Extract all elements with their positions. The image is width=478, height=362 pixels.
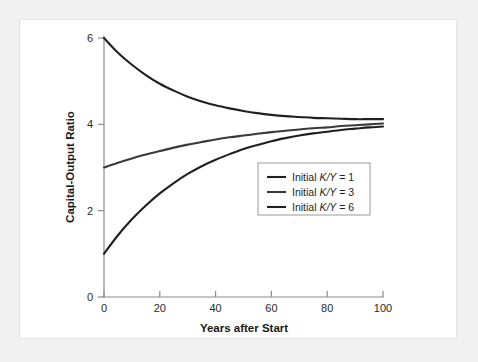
y-tick-label-0: 0 bbox=[87, 291, 93, 303]
chart-legend[interactable]: Initial K/Y = 1Initial K/Y = 3Initial K/… bbox=[258, 163, 370, 215]
legend-label-1: Initial K/Y = 3 bbox=[292, 186, 354, 198]
x-tick-label-20: 20 bbox=[154, 302, 166, 314]
capital-output-ratio-chart: 0246 020406080100 Years after Start Capi… bbox=[0, 0, 478, 362]
series-curves bbox=[104, 38, 383, 254]
series-curve-2 bbox=[104, 38, 383, 119]
x-tick-label-60: 60 bbox=[265, 302, 277, 314]
y-axis-ticks: 0246 bbox=[87, 32, 104, 303]
y-axis-title: Capital-Output Ratio bbox=[64, 111, 76, 223]
y-tick-label-6: 6 bbox=[87, 32, 93, 44]
legend-label-0: Initial K/Y = 1 bbox=[292, 171, 354, 183]
x-tick-label-80: 80 bbox=[321, 302, 333, 314]
legend-label-2: Initial K/Y = 6 bbox=[292, 201, 354, 213]
x-tick-label-40: 40 bbox=[209, 302, 221, 314]
x-tick-label-100: 100 bbox=[374, 302, 392, 314]
y-tick-label-4: 4 bbox=[87, 118, 93, 130]
x-axis-title: Years after Start bbox=[200, 322, 288, 334]
x-tick-label-0: 0 bbox=[101, 302, 107, 314]
x-axis-ticks: 020406080100 bbox=[101, 291, 392, 314]
figure-root: 0246 020406080100 Years after Start Capi… bbox=[0, 0, 478, 362]
y-tick-label-2: 2 bbox=[87, 205, 93, 217]
